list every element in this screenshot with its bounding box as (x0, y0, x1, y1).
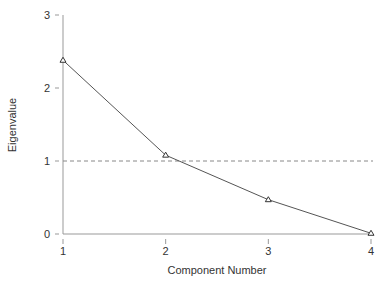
series-line (63, 60, 371, 233)
y-tick-label: 3 (44, 9, 50, 21)
x-tick-label: 3 (265, 245, 271, 257)
triangle-marker-icon (60, 57, 66, 62)
x-tick-label: 4 (368, 245, 374, 257)
y-axis: 0123 (44, 9, 63, 240)
x-axis: 1234 (60, 234, 374, 257)
scree-plot: 0123 1234 Component Number Eigenvalue (0, 0, 382, 289)
y-tick-label: 0 (44, 228, 50, 240)
y-tick-label: 1 (44, 155, 50, 167)
x-axis-title: Component Number (167, 264, 266, 276)
y-axis-title: Eigenvalue (6, 98, 18, 152)
y-tick-label: 2 (44, 82, 50, 94)
x-tick-label: 2 (163, 245, 169, 257)
x-tick-label: 1 (60, 245, 66, 257)
eigenvalue-series (60, 57, 374, 235)
